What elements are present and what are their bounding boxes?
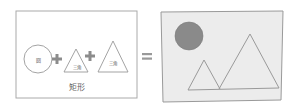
circle-label: 圆 <box>36 57 41 64</box>
rectangle-caption: 矩形 <box>69 82 85 92</box>
triangle2-label: 三角 <box>109 60 117 67</box>
right-panel <box>161 11 283 102</box>
triangle1-label: 三角 <box>73 64 81 71</box>
equals-icon <box>142 53 152 60</box>
composition-diagram: 圆 三角 三角 矩形 <box>0 0 295 109</box>
sun-circle <box>175 22 203 50</box>
left-panel: 圆 三角 三角 矩形 <box>16 11 137 98</box>
